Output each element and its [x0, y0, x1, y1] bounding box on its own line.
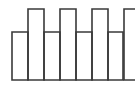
canvas-background	[0, 0, 135, 90]
figure-container	[0, 0, 135, 90]
comb-pattern-diagram	[0, 0, 135, 90]
